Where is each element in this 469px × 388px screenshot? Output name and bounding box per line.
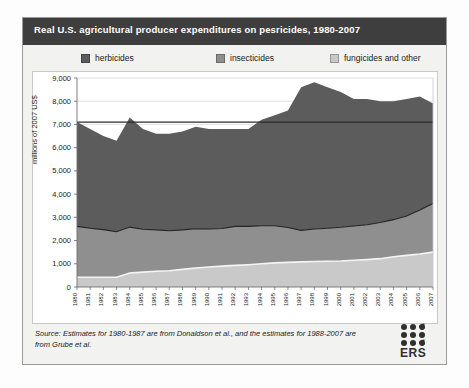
logo-leaf-icon bbox=[418, 323, 425, 330]
logo-dot-icon bbox=[410, 324, 416, 330]
svg-text:1988: 1988 bbox=[177, 292, 183, 306]
svg-text:2007: 2007 bbox=[428, 292, 434, 306]
svg-text:2002: 2002 bbox=[362, 292, 368, 306]
ers-logo: ERS bbox=[399, 324, 437, 360]
chart-frame: Real U.S. agricultural producer expendit… bbox=[22, 17, 447, 365]
figure-container: Real U.S. agricultural producer expendit… bbox=[0, 0, 469, 388]
svg-text:1986: 1986 bbox=[151, 292, 157, 306]
svg-text:2004: 2004 bbox=[388, 292, 394, 306]
area-chart-svg: 01,0002,0003,0004,0005,0006,0007,0008,00… bbox=[33, 72, 439, 325]
svg-text:8,000: 8,000 bbox=[52, 97, 71, 106]
svg-text:4,000: 4,000 bbox=[52, 190, 71, 199]
svg-text:2000: 2000 bbox=[336, 292, 342, 306]
legend-label-insecticides: insecticides bbox=[230, 53, 274, 63]
logo-dot-icon bbox=[410, 332, 416, 338]
svg-text:1982: 1982 bbox=[98, 292, 104, 306]
legend-item-insecticides: insecticides bbox=[216, 53, 274, 63]
svg-text:2,000: 2,000 bbox=[52, 236, 71, 245]
svg-text:7,000: 7,000 bbox=[52, 120, 71, 129]
svg-text:1984: 1984 bbox=[125, 292, 131, 306]
svg-text:1983: 1983 bbox=[112, 292, 118, 306]
logo-dot-icon bbox=[401, 324, 407, 330]
svg-text:1980: 1980 bbox=[72, 292, 78, 306]
svg-text:2006: 2006 bbox=[415, 292, 421, 306]
svg-text:1999: 1999 bbox=[323, 292, 329, 306]
logo-dot-grid bbox=[401, 324, 427, 347]
svg-text:3,000: 3,000 bbox=[52, 213, 71, 222]
svg-text:6,000: 6,000 bbox=[52, 143, 71, 152]
title-bar: Real U.S. agricultural producer expendit… bbox=[23, 18, 446, 45]
legend-label-herbicides: herbicides bbox=[95, 53, 134, 63]
legend-swatch-icon bbox=[81, 54, 90, 63]
chart-title: Real U.S. agricultural producer expendit… bbox=[34, 24, 360, 35]
svg-text:2003: 2003 bbox=[375, 292, 381, 306]
svg-text:1985: 1985 bbox=[138, 292, 144, 306]
legend-swatch-icon bbox=[330, 54, 339, 63]
legend-item-herbicides: herbicides bbox=[81, 53, 134, 63]
svg-text:1990: 1990 bbox=[204, 292, 210, 306]
svg-text:1995: 1995 bbox=[270, 292, 276, 306]
svg-text:2001: 2001 bbox=[349, 292, 355, 306]
svg-text:1998: 1998 bbox=[309, 292, 315, 306]
plot-panel: millions of 2007 US$ 01,0002,0003,0004,0… bbox=[32, 71, 438, 324]
svg-text:1989: 1989 bbox=[191, 292, 197, 306]
svg-text:1996: 1996 bbox=[283, 292, 289, 306]
logo-text: ERS bbox=[400, 346, 426, 360]
svg-text:1993: 1993 bbox=[243, 292, 249, 306]
legend-swatch-icon bbox=[216, 54, 225, 63]
svg-text:2005: 2005 bbox=[402, 292, 408, 306]
svg-text:1991: 1991 bbox=[217, 292, 223, 306]
svg-text:0: 0 bbox=[67, 283, 71, 292]
svg-text:1992: 1992 bbox=[230, 292, 236, 306]
source-note: Source: Estimates for 1980-1987 are from… bbox=[35, 329, 365, 350]
legend-label-fungicides: fungicides and other bbox=[344, 53, 421, 63]
legend-item-fungicides: fungicides and other bbox=[330, 53, 421, 63]
svg-text:1987: 1987 bbox=[164, 292, 170, 306]
svg-text:1,000: 1,000 bbox=[52, 259, 71, 268]
svg-text:1994: 1994 bbox=[257, 292, 263, 306]
chart-legend: herbicides insecticides fungicides and o… bbox=[23, 49, 446, 71]
logo-dot-icon bbox=[419, 332, 425, 338]
svg-text:9,000: 9,000 bbox=[52, 74, 71, 83]
svg-text:1981: 1981 bbox=[85, 292, 91, 306]
logo-dot-icon bbox=[401, 332, 407, 338]
svg-text:1997: 1997 bbox=[296, 292, 302, 306]
svg-text:5,000: 5,000 bbox=[52, 166, 71, 175]
